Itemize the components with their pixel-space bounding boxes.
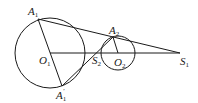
label-a2: A2 <box>108 24 120 38</box>
radius-a2-o2 <box>113 37 118 53</box>
label-a1-prime: A1′ <box>55 87 67 103</box>
line-a1prime-a2 <box>62 37 113 86</box>
label-o1: O1 <box>39 54 51 68</box>
geometry-diagram: A1 A1′ A2 O1 O2 S1 S2 <box>0 0 198 103</box>
label-s2: S2 <box>92 54 102 68</box>
label-a1: A1 <box>27 5 39 19</box>
label-o2: O2 <box>114 56 126 70</box>
label-s1: S1 <box>180 55 190 69</box>
